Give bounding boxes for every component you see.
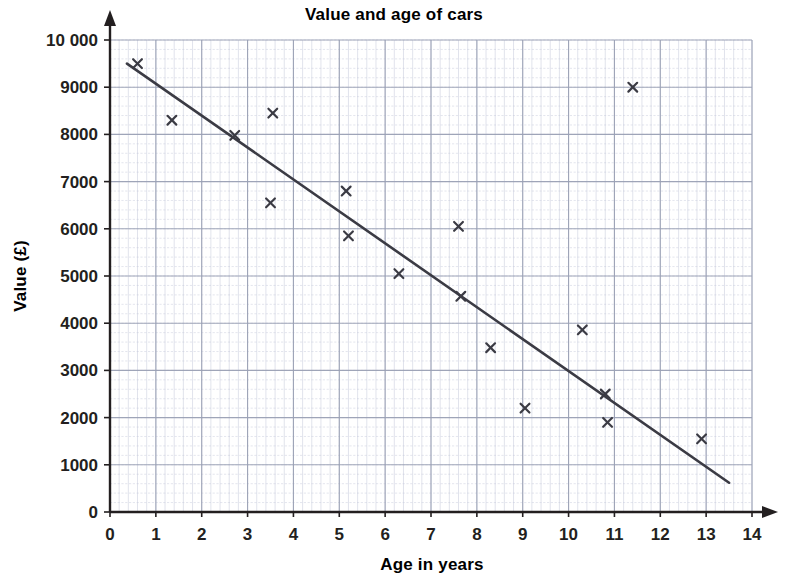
x-tick-label: 7 bbox=[426, 525, 435, 544]
chart-title: Value and age of cars bbox=[305, 5, 483, 24]
scatter-chart: 01234567891011121314 0100020003000400050… bbox=[0, 0, 789, 582]
x-tick-label: 6 bbox=[380, 525, 389, 544]
x-tick-label: 4 bbox=[289, 525, 299, 544]
y-tick-label: 2000 bbox=[60, 409, 98, 428]
chart-canvas: 01234567891011121314 0100020003000400050… bbox=[0, 0, 789, 582]
y-tick-label: 8000 bbox=[60, 125, 98, 144]
y-axis-label: Value (£) bbox=[11, 240, 30, 312]
x-tick-label: 1 bbox=[151, 525, 160, 544]
x-tick-label: 12 bbox=[651, 525, 670, 544]
x-tick-label: 2 bbox=[197, 525, 206, 544]
x-tick-label: 8 bbox=[472, 525, 481, 544]
y-tick-label: 5000 bbox=[60, 267, 98, 286]
x-tick-label: 14 bbox=[743, 525, 762, 544]
y-tick-label: 1000 bbox=[60, 456, 98, 475]
y-tick-label: 3000 bbox=[60, 361, 98, 380]
y-tick-label: 10 000 bbox=[46, 31, 98, 50]
x-tick-labels: 01234567891011121314 bbox=[105, 525, 762, 544]
y-tick-label: 0 bbox=[89, 503, 98, 522]
x-tick-label: 0 bbox=[105, 525, 114, 544]
y-tick-label: 4000 bbox=[60, 314, 98, 333]
x-tick-label: 10 bbox=[559, 525, 578, 544]
x-tick-label: 3 bbox=[243, 525, 252, 544]
y-tick-label: 9000 bbox=[60, 78, 98, 97]
x-axis-label: Age in years bbox=[380, 555, 484, 574]
x-tick-label: 13 bbox=[697, 525, 716, 544]
x-tick-label: 5 bbox=[335, 525, 344, 544]
y-tick-label: 6000 bbox=[60, 220, 98, 239]
x-tick-label: 11 bbox=[605, 525, 623, 544]
y-tick-label: 7000 bbox=[60, 173, 98, 192]
x-tick-label: 9 bbox=[518, 525, 527, 544]
